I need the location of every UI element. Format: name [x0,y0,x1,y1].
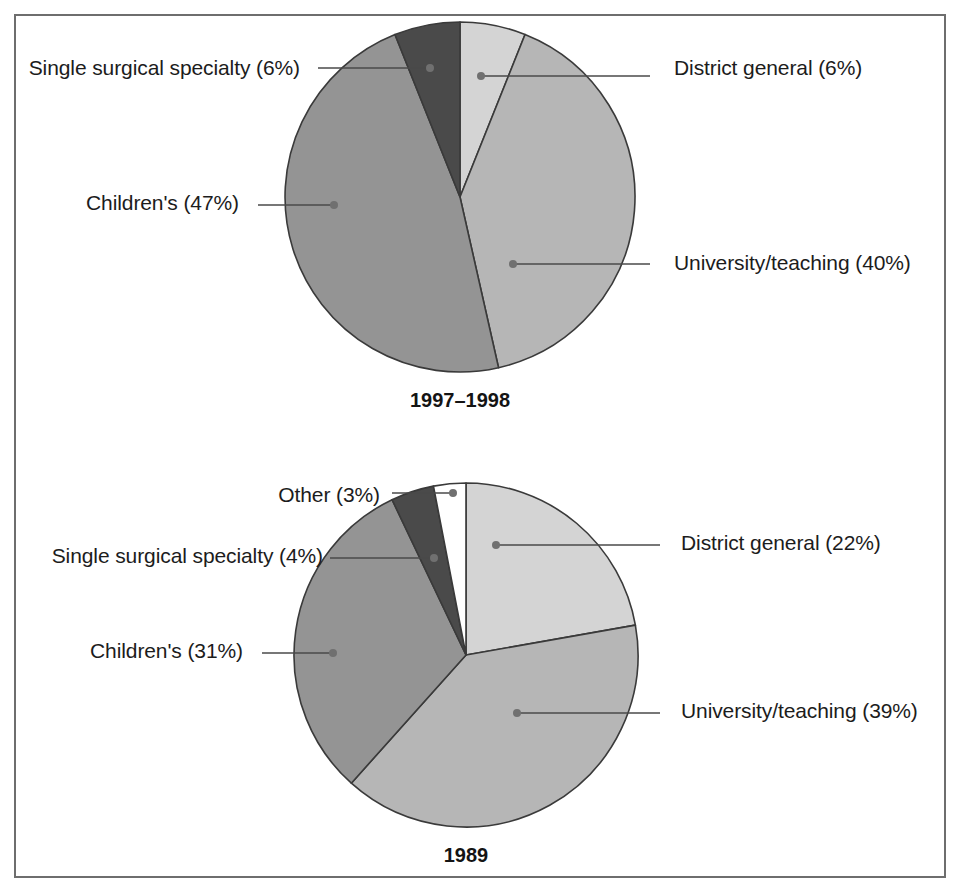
pie-1989-label-single-surgical-specialty: Single surgical specialty (4%) [0,544,323,568]
pie-1989-label-other: Other (3%) [0,483,380,507]
pie-1989-label-children-s: Children's (31%) [0,639,243,663]
figure-border [14,14,946,878]
pie-1997-1998-title: 1997–1998 [340,389,580,412]
pie-1997-1998-label-district-general: District general (6%) [674,56,862,80]
pie-1989-label-university-teaching: University/teaching (39%) [681,699,918,723]
pie-1997-1998-label-children-s: Children's (47%) [0,191,239,215]
pie-1997-1998-label-single-surgical-specialty: Single surgical specialty (6%) [0,56,300,80]
pie-1989-label-district-general: District general (22%) [681,531,881,555]
pie-1989-title: 1989 [346,844,586,867]
pie-1997-1998-label-university-teaching: University/teaching (40%) [674,251,911,275]
figure-root: District general (6%)University/teaching… [0,0,962,893]
